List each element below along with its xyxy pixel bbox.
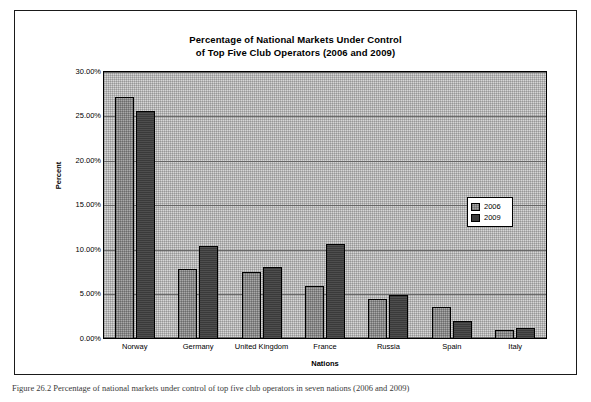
legend: 2006 2009 bbox=[467, 197, 513, 227]
bar-2006[interactable] bbox=[305, 286, 324, 339]
y-tick-label: 20.00% bbox=[76, 156, 101, 165]
bar-2006[interactable] bbox=[178, 269, 197, 339]
y-tick-label: 0.00% bbox=[80, 334, 101, 343]
figure-container: Percentage of National Markets Under Con… bbox=[0, 0, 591, 402]
x-axis-tick-labels: Norway Germany United Kingdom France Rus… bbox=[103, 342, 547, 351]
bar-group-russia bbox=[357, 71, 420, 339]
chart-frame: Percentage of National Markets Under Con… bbox=[14, 10, 577, 375]
bar-2009[interactable] bbox=[263, 267, 282, 339]
x-tick-label: France bbox=[293, 342, 356, 351]
bar-2009[interactable] bbox=[199, 246, 218, 339]
figure-caption: Figure 26.2 Percentage of national marke… bbox=[12, 383, 579, 394]
bar-group-germany bbox=[166, 71, 229, 339]
bar-2009[interactable] bbox=[326, 244, 345, 339]
x-tick-label: Italy bbox=[484, 342, 547, 351]
legend-label: 2009 bbox=[484, 213, 501, 222]
x-tick-label: Germany bbox=[166, 342, 229, 351]
y-tick-label: 10.00% bbox=[76, 245, 101, 254]
legend-swatch-icon bbox=[471, 214, 480, 222]
y-tick-label: 25.00% bbox=[76, 111, 101, 120]
chart-title: Percentage of National Markets Under Con… bbox=[15, 33, 576, 59]
bar-2006[interactable] bbox=[432, 307, 451, 339]
bar-2006[interactable] bbox=[115, 97, 134, 339]
y-tick-label: 5.00% bbox=[80, 289, 101, 298]
bar-2009[interactable] bbox=[136, 111, 155, 339]
y-axis-tick-labels: 30.00% 25.00% 20.00% 15.00% 10.00% 5.00%… bbox=[49, 64, 101, 346]
legend-entry-2009[interactable]: 2009 bbox=[471, 212, 508, 223]
bar-2009[interactable] bbox=[453, 321, 472, 339]
bar-2006[interactable] bbox=[242, 272, 261, 339]
x-tick-label: Russia bbox=[357, 342, 420, 351]
x-tick-label: Norway bbox=[103, 342, 166, 351]
chart-title-line-2: of Top Five Club Operators (2006 and 200… bbox=[15, 46, 576, 59]
legend-entry-2006[interactable]: 2006 bbox=[471, 201, 508, 212]
bar-group-norway bbox=[103, 71, 166, 339]
bar-2006[interactable] bbox=[495, 330, 514, 339]
bar-2006[interactable] bbox=[368, 299, 387, 339]
legend-label: 2006 bbox=[484, 202, 501, 211]
chart-title-line-1: Percentage of National Markets Under Con… bbox=[15, 33, 576, 46]
x-tick-label: Spain bbox=[420, 342, 483, 351]
x-axis-title: Nations bbox=[103, 359, 547, 368]
legend-swatch-icon bbox=[471, 203, 480, 211]
y-tick-label: 30.00% bbox=[76, 67, 101, 76]
x-tick-label: United Kingdom bbox=[230, 342, 293, 351]
y-tick-label: 15.00% bbox=[76, 200, 101, 209]
bar-group-france bbox=[293, 71, 356, 339]
bar-group-united-kingdom bbox=[230, 71, 293, 339]
bar-2009[interactable] bbox=[389, 295, 408, 339]
bar-2009[interactable] bbox=[516, 328, 535, 339]
